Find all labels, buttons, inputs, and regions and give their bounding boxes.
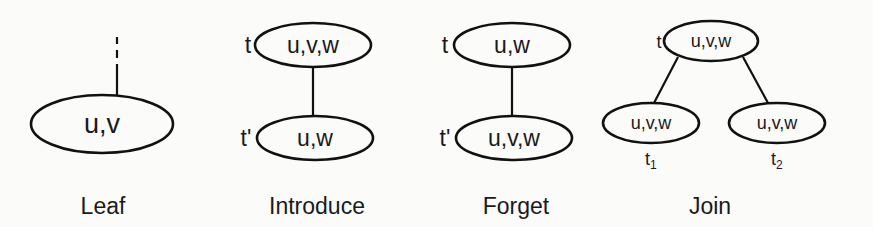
forget-parent-label: u,w xyxy=(494,32,530,58)
join-right-child-name: t2 xyxy=(771,149,783,172)
join-right-child-label: u,v,w xyxy=(757,113,799,133)
introduce-caption: Introduce xyxy=(269,193,365,219)
join-right-edge xyxy=(743,57,768,103)
join-left-child-name: t1 xyxy=(645,149,657,172)
join-left-edge xyxy=(654,57,678,103)
forget-parent-name: t xyxy=(442,32,449,58)
introduce-diagram: t u,v,w t' u,w Introduce xyxy=(241,23,373,219)
introduce-parent-name: t xyxy=(245,32,252,58)
forget-child-label: u,v,w xyxy=(488,125,540,151)
leaf-node-label: u,v xyxy=(84,109,121,139)
forget-caption: Forget xyxy=(483,193,550,219)
join-left-child-label: u,v,w xyxy=(631,113,673,133)
introduce-child-name: t' xyxy=(241,125,252,151)
introduce-parent-label: u,v,w xyxy=(287,32,339,58)
tree-decomposition-node-types-diagram: u,v Leaf t u,v,w t' u,w Introduce t u,w … xyxy=(0,0,873,227)
forget-diagram: t u,w t' u,v,w Forget xyxy=(440,23,572,219)
join-parent-name: t xyxy=(656,32,661,52)
leaf-caption: Leaf xyxy=(81,193,126,219)
join-caption: Join xyxy=(689,193,731,219)
forget-child-name: t' xyxy=(440,125,451,151)
introduce-child-label: u,w xyxy=(297,125,333,151)
join-parent-label: u,v,w xyxy=(691,31,733,51)
leaf-diagram: u,v Leaf xyxy=(31,37,173,219)
join-left-child-subscript: 1 xyxy=(650,158,657,172)
join-diagram: t u,v,w u,v,w u,v,w t1 t2 Join xyxy=(603,21,825,219)
join-right-child-subscript: 2 xyxy=(776,158,783,172)
